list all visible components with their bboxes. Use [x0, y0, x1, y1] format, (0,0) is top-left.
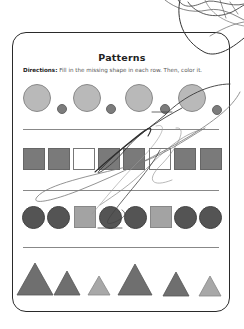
dark-square: [48, 148, 70, 170]
small-circle: [160, 104, 170, 114]
small-circle: [57, 104, 67, 114]
dark-circle: [174, 206, 197, 229]
worksheet-title: Patterns: [0, 52, 244, 63]
row-divider: [23, 247, 219, 248]
large-circle: [178, 84, 206, 112]
directions-label: Directions:: [23, 67, 57, 73]
empty-square: [149, 148, 171, 170]
large-circle: [125, 84, 153, 112]
dark-circle: [199, 206, 222, 229]
dark-square: [123, 148, 145, 170]
large-circle: [23, 84, 51, 112]
directions: Directions: Fill in the missing shape in…: [23, 67, 202, 73]
worksheet-frame: [12, 32, 230, 312]
dark-circle: [47, 206, 70, 229]
dark-circle: [124, 206, 147, 229]
dark-square: [23, 148, 45, 170]
small-circle: [212, 105, 222, 115]
small-circle: [106, 104, 116, 114]
row-divider: [23, 190, 219, 191]
light-square: [150, 206, 172, 228]
large-circle: [73, 84, 101, 112]
light-square: [74, 206, 96, 228]
dark-circle: [99, 206, 122, 229]
dark-square: [98, 148, 120, 170]
row-divider: [23, 129, 219, 130]
dark-circle: [22, 206, 45, 229]
dark-square: [200, 148, 222, 170]
empty-square: [73, 148, 95, 170]
directions-text: Fill in the missing shape in each row. T…: [57, 67, 202, 73]
dark-square: [174, 148, 196, 170]
